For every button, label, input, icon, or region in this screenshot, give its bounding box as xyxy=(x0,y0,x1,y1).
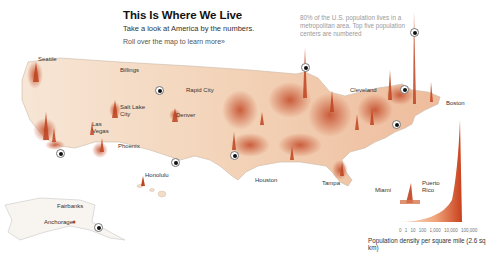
city-label-salt-lake-city-2: City xyxy=(120,111,130,118)
los-angeles-marker[interactable] xyxy=(56,149,65,158)
city-label-las-vegas-1: Las xyxy=(92,121,102,128)
city-label-cleveland: Cleveland xyxy=(350,87,377,94)
houston-area-marker[interactable] xyxy=(230,151,239,160)
metro-marker-west[interactable] xyxy=(155,86,164,95)
legend-curve xyxy=(395,120,462,222)
philadelphia-marker[interactable] xyxy=(392,120,401,129)
city-label-miami: Miami xyxy=(375,187,391,194)
legend-ticks: 0 1 10 100 1,000 10,000 100,000 xyxy=(399,228,477,233)
city-label-fairbanks: Fairbanks xyxy=(57,203,83,210)
city-label-las-vegas-2: Vegas xyxy=(92,128,109,135)
city-label-honolulu: Honolulu xyxy=(145,172,169,179)
city-label-puerto-rico-2: Rico xyxy=(422,187,434,194)
city-label-puerto-rico-1: Puerto xyxy=(422,180,440,187)
city-label-rapid-city: Rapid City xyxy=(186,87,214,94)
page-title: This Is Where We Live xyxy=(123,9,242,21)
city-label-boston: Boston xyxy=(446,100,465,107)
city-label-billings: Billings xyxy=(120,67,139,74)
page-subtitle: Take a look at America by the numbers. xyxy=(123,24,254,33)
city-label-tampa: Tampa xyxy=(322,180,340,187)
city-label-houston: Houston xyxy=(255,177,277,184)
chicago-marker[interactable] xyxy=(301,63,310,72)
alaska-marker[interactable] xyxy=(94,223,103,232)
city-label-phoenix: Phoenix xyxy=(118,143,140,150)
rollover-link[interactable]: Roll over the map to learn more» xyxy=(123,38,225,45)
city-label-salt-lake-city-1: Salt Lake xyxy=(120,104,145,111)
dallas-marker[interactable] xyxy=(171,158,180,167)
city-label-seattle: Seattle xyxy=(38,56,57,63)
top-metro-marker[interactable] xyxy=(410,28,419,37)
metro-note: 80% of the U.S. population lives in a me… xyxy=(300,14,418,38)
legend-label: Population density per square mile (2.6 … xyxy=(368,237,495,251)
city-label-anchorage: Anchorage xyxy=(44,219,73,226)
new-york-marker[interactable] xyxy=(400,85,409,94)
population-density-map[interactable] xyxy=(0,0,495,263)
city-label-denver: Denver xyxy=(176,112,195,119)
